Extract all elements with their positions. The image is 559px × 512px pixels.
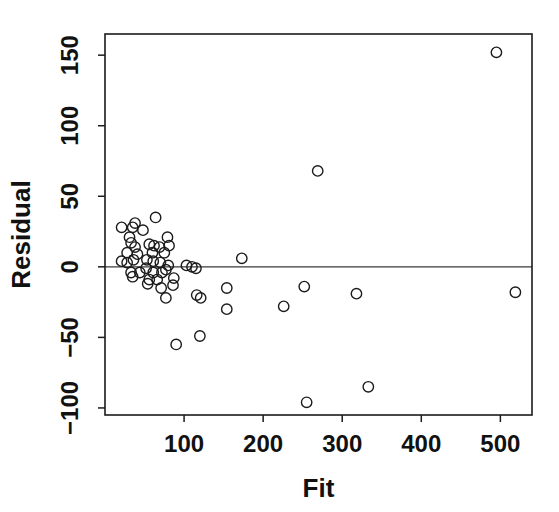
x-tick-label: 100	[164, 430, 204, 457]
y-tick-label: 150	[56, 35, 83, 75]
data-point	[299, 281, 309, 291]
data-point	[363, 382, 373, 392]
y-tick-label: −100	[56, 381, 83, 435]
plot-canvas: 100200300400500−100−50050100150FitResidu…	[0, 0, 559, 512]
x-axis-label: Fit	[303, 473, 335, 503]
data-point	[313, 166, 323, 176]
data-point	[222, 304, 232, 314]
x-tick-label: 500	[480, 430, 520, 457]
data-point	[138, 225, 148, 235]
data-point	[491, 47, 501, 57]
y-tick-label: 50	[56, 183, 83, 210]
x-tick-label: 200	[243, 430, 283, 457]
data-point	[156, 283, 166, 293]
data-point	[161, 293, 171, 303]
data-point	[279, 301, 289, 311]
data-point	[195, 331, 205, 341]
data-point	[351, 288, 361, 298]
x-tick-label: 400	[401, 430, 441, 457]
plot-box	[105, 34, 532, 415]
data-point	[150, 212, 160, 222]
data-point	[237, 253, 247, 263]
residual-vs-fit-chart: 100200300400500−100−50050100150FitResidu…	[0, 0, 559, 512]
y-axis-label: Residual	[6, 180, 36, 288]
data-point	[222, 283, 232, 293]
data-point	[301, 397, 311, 407]
data-point	[510, 287, 520, 297]
x-tick-label: 300	[322, 430, 362, 457]
y-tick-label: 0	[56, 260, 83, 273]
y-tick-label: −50	[56, 317, 83, 358]
data-point	[168, 280, 178, 290]
figure-page: 100200300400500−100−50050100150FitResidu…	[0, 0, 559, 512]
data-point	[116, 222, 126, 232]
y-tick-label: 100	[56, 106, 83, 146]
data-point	[171, 339, 181, 349]
